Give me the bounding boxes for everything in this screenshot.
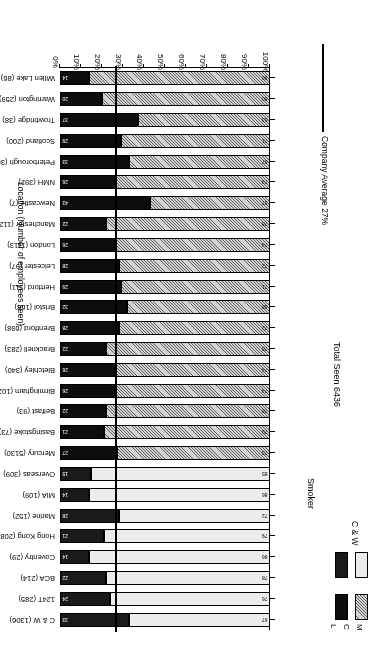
category-tick (270, 140, 275, 141)
bar-value-label-smoker: 22 (63, 575, 69, 580)
bar-value-label-nonsmoker: 78 (262, 409, 268, 414)
bar-segment-smoker: 26 (60, 363, 115, 377)
bar-row: 7426 (60, 384, 270, 398)
bar-value-label-nonsmoker: 71 (262, 138, 268, 143)
bar-segment-smoker: 28 (60, 509, 119, 523)
bar-value-label-nonsmoker: 74 (262, 242, 268, 247)
bar-value-label-smoker: 26 (63, 388, 69, 393)
bar-segment-nonsmoker: 74 (115, 175, 270, 189)
category-label: Hertford (111) (0, 283, 55, 291)
category-tick (270, 223, 275, 224)
value-axis-tick-label: 90% (240, 42, 249, 82)
bar-value-label-nonsmoker: 79 (262, 430, 268, 435)
bar-value-label-nonsmoker: 71 (262, 284, 268, 289)
bar-value-label-nonsmoker: 68 (262, 305, 268, 310)
bar-value-label-smoker: 33 (63, 617, 69, 622)
category-tick (270, 98, 275, 99)
bar-segment-smoker: 14 (60, 488, 89, 502)
bar-segment-nonsmoker: 79 (104, 529, 270, 543)
bar-segment-nonsmoker: 67 (129, 613, 270, 627)
category-tick (270, 535, 275, 536)
legend-group-cw: C & W (350, 521, 360, 546)
bar-segment-smoker: 21 (60, 425, 104, 439)
category-tick (270, 348, 275, 349)
bar-row: 7822 (60, 342, 270, 356)
bar-row: 7228 (60, 509, 270, 523)
bar-value-label-smoker: 29 (63, 138, 69, 143)
category-label: Peterborough (36) (0, 158, 55, 166)
category-tick (270, 244, 275, 245)
bar-row: 7129 (60, 280, 270, 294)
bar-segment-smoker: 27 (60, 446, 117, 460)
bar-row: 7921 (60, 529, 270, 543)
bar-value-label-smoker: 14 (63, 555, 69, 560)
bar-value-label-smoker: 37 (63, 118, 69, 123)
bar-row: 8614 (60, 488, 270, 502)
bar-row: 7426 (60, 363, 270, 377)
bar-value-label-smoker: 21 (63, 430, 69, 435)
legend-swatch-mcl-nonsmoker (355, 594, 368, 620)
bar-segment-nonsmoker: 72 (119, 259, 270, 273)
category-tick (270, 473, 275, 474)
bar-segment-nonsmoker: 73 (117, 446, 270, 460)
bar-value-label-nonsmoker: 72 (262, 326, 268, 331)
bar-segment-nonsmoker: 78 (106, 571, 270, 585)
category-tick (270, 598, 275, 599)
bar-value-label-smoker: 26 (63, 242, 69, 247)
bar-value-label-nonsmoker: 74 (262, 388, 268, 393)
value-axis-tick-label: 60% (177, 42, 186, 82)
bar-value-label-smoker: 26 (63, 367, 69, 372)
bar-value-label-smoker: 14 (63, 492, 69, 497)
bar-row: 6733 (60, 155, 270, 169)
company-average-reference-line (115, 66, 117, 632)
category-label: 124T (285) (0, 595, 55, 603)
bar-value-label-smoker: 32 (63, 305, 69, 310)
category-label: Bristol (168) (0, 303, 55, 311)
bar-row: 7822 (60, 571, 270, 585)
bar-row: 7228 (60, 259, 270, 273)
bar-segment-smoker: 24 (60, 592, 110, 606)
bar-segment-smoker: 29 (60, 280, 121, 294)
legend-key-m: M (355, 624, 364, 631)
category-tick (270, 369, 275, 370)
bar-value-label-nonsmoker: 67 (262, 617, 268, 622)
bar-row: 7426 (60, 238, 270, 252)
category-tick (270, 181, 275, 182)
category-tick (270, 265, 275, 266)
value-axis-tick-label: 80% (219, 42, 228, 82)
category-label: Warrington (259) (0, 95, 55, 103)
bar-segment-smoker: 43 (60, 196, 150, 210)
category-label: Bracknell (283) (0, 345, 55, 353)
bar-row: 6733 (60, 613, 270, 627)
value-axis-tick-label: 70% (198, 42, 207, 82)
value-axis-tick-label: 30% (114, 42, 123, 82)
legend-swatch-mcl-smoker (335, 594, 348, 620)
category-label: Newcastle (7) (0, 199, 55, 207)
category-label: Birmingham (1024) (0, 387, 55, 395)
category-label: Marine (152) (0, 512, 55, 520)
bar-segment-nonsmoker: 79 (104, 425, 270, 439)
bar-value-label-smoker: 21 (63, 534, 69, 539)
bar-value-label-nonsmoker: 76 (262, 596, 268, 601)
bar-row: 5743 (60, 196, 270, 210)
bar-value-label-smoker: 28 (63, 513, 69, 518)
bar-value-label-nonsmoker: 57 (262, 201, 268, 206)
category-label: Scotland (200) (0, 137, 55, 145)
category-tick (270, 619, 275, 620)
category-tick (270, 161, 275, 162)
category-tick (270, 286, 275, 287)
chart-figure: Smoker M C L C & W Total Seen 6436 Compa… (0, 0, 386, 652)
bar-value-label-smoker: 14 (63, 76, 69, 81)
bar-segment-smoker: 37 (60, 113, 138, 127)
bar-segment-nonsmoker: 67 (129, 155, 270, 169)
bar-value-label-smoker: 43 (63, 201, 69, 206)
legend-key-l: L (329, 624, 338, 628)
bar-value-label-smoker: 28 (63, 326, 69, 331)
category-tick (270, 119, 275, 120)
bar-segment-nonsmoker: 72 (119, 321, 270, 335)
bar-row: 6337 (60, 113, 270, 127)
bar-value-label-nonsmoker: 74 (262, 367, 268, 372)
bar-segment-smoker: 33 (60, 613, 129, 627)
bar-row: 7822 (60, 217, 270, 231)
bar-row: 7822 (60, 404, 270, 418)
